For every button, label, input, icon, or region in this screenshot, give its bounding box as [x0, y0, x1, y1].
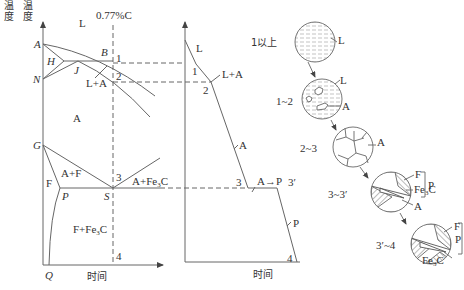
marker-2: 2	[116, 71, 122, 82]
stage-5-group-p: P	[455, 234, 461, 245]
point-j: J	[74, 65, 79, 76]
stage-4-group-p: P	[428, 180, 434, 191]
region-austenite-ferrite: A+F	[61, 168, 81, 179]
stage-5-phase-fe3c: Fe3C	[422, 255, 444, 268]
region-ferrite-cementite: F+Fe3C	[73, 224, 107, 237]
curve-label-austenite: A	[239, 140, 247, 151]
stage-4-label: 3~3′	[328, 189, 347, 200]
region-liquid-austenite: L+A	[86, 78, 107, 89]
point-s: S	[104, 191, 110, 202]
point-q: Q	[45, 270, 53, 281]
marker-4: 4	[116, 251, 122, 262]
curve-label-transformation: A→P	[257, 176, 282, 187]
curve-marker-4: 4	[287, 253, 293, 264]
stage-5-phase-f: F	[454, 221, 460, 232]
point-a: A	[34, 39, 41, 50]
stage-4-phase-a: A	[414, 201, 422, 212]
point-h: H	[47, 56, 55, 67]
curve-label-liquid: L	[196, 43, 203, 54]
curve-marker-3-prime: 3′	[288, 177, 296, 188]
micro-liquid-icon	[295, 22, 335, 62]
stage-3-phase-a: A	[377, 137, 385, 148]
curve-x-axis-label: 时间	[253, 270, 273, 280]
stage-2-phase-a: A	[342, 101, 350, 112]
stage-2-label: 1~2	[276, 96, 293, 107]
stage-2-phase-l: L	[340, 75, 347, 86]
marker-1: 1	[116, 53, 122, 64]
stage-3-label: 2~3	[300, 143, 317, 154]
composition-label: 0.77%C	[96, 10, 132, 21]
point-n: N	[33, 74, 40, 85]
region-austenite: A	[73, 113, 81, 124]
curve-label-liquid-austenite: L+A	[222, 69, 243, 80]
point-p: P	[62, 191, 69, 202]
stage-5-label: 3′~4	[376, 240, 395, 251]
region-ferrite: F	[46, 178, 52, 189]
curve-marker-3: 3	[236, 177, 242, 188]
region-liquid: L	[79, 18, 86, 29]
x-axis-label: 时间	[87, 272, 107, 282]
curve-marker-1: 1	[192, 66, 198, 77]
stage-4-phase-f: F	[415, 169, 421, 180]
curve-label-pearlite: P	[293, 218, 299, 229]
region-austenite-cementite: A+Fe3C	[132, 176, 168, 189]
point-b: B	[101, 47, 108, 58]
point-g: G	[33, 140, 41, 151]
stage-1-phase-l: L	[338, 35, 345, 46]
stage-1-label: 1以上	[251, 38, 277, 48]
marker-3: 3	[116, 172, 122, 183]
curve-marker-2: 2	[203, 85, 209, 96]
